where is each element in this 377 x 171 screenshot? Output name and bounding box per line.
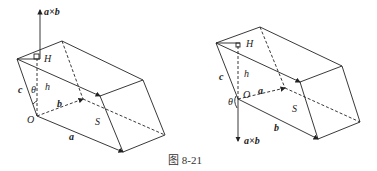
right-label-a: a — [258, 85, 263, 96]
right-label-b: b — [274, 122, 279, 133]
right-label-S: S — [292, 103, 297, 114]
right-labels: H c h O a θ S b a×b — [219, 38, 297, 146]
left-labels: a×b H c θ h b O S a — [18, 6, 100, 142]
left-label-H: H — [43, 53, 52, 64]
left-label-c: c — [18, 84, 23, 95]
left-label-a: a — [69, 131, 74, 142]
left-label-S: S — [95, 116, 100, 127]
right-label-h: h — [244, 68, 249, 79]
left-label-b: b — [57, 98, 62, 109]
right-label-O: O — [243, 89, 250, 100]
right-label-H: H — [245, 38, 254, 49]
right-parallelepiped — [216, 27, 360, 141]
right-label-cross: a×b — [244, 135, 260, 146]
right-label-theta: θ — [228, 96, 233, 107]
left-parallelepiped — [17, 10, 165, 152]
figure-canvas: a×b H c θ h b O S a H c h — [0, 0, 377, 171]
left-label-cross: a×b — [44, 6, 60, 17]
left-label-theta: θ — [31, 84, 36, 95]
figure-caption: 图 8-21 — [168, 154, 202, 166]
left-label-O: O — [27, 114, 34, 125]
right-label-c: c — [219, 71, 224, 82]
left-label-h: h — [45, 81, 50, 92]
